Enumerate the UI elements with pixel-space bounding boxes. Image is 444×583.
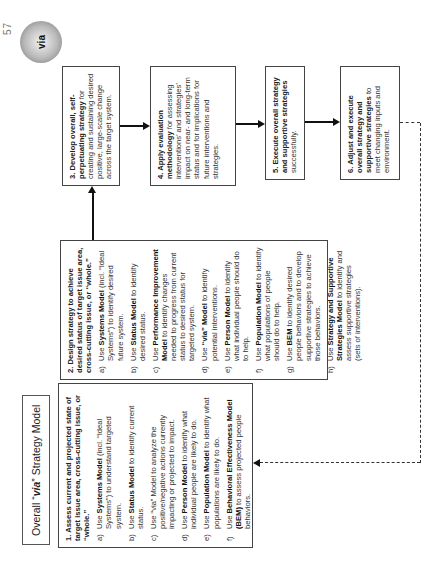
arrow-2-stub [92,192,94,240]
list-item: f)Use Behavioral Effectiveness Model (BE… [225,390,252,541]
list-item: b)Use Status Model to identify desired s… [129,247,147,373]
item-text: Use “via” Model to analyze the positive/… [149,415,176,529]
item-text: Use [202,513,211,529]
list-item: e)Use Population Model to identify what … [202,390,220,541]
step-5-execute-box: 5. Execute overall strategy and supporti… [265,66,305,180]
item-text: Use [326,345,335,361]
arrowhead-icon [258,120,265,128]
item-text: Use [223,345,232,361]
rotated-page: 57 Overall “via” Strategy Model via 1. A… [0,0,444,583]
item-text: Use [127,513,136,529]
item-letter: a) [95,534,104,541]
item-text: Use [95,513,104,529]
item-model: “via” Model [200,303,209,345]
feedback-loop-horizontal [420,123,421,463]
list-item: a)Use Systems Model (incl. “Ideal System… [97,247,124,373]
item-model: Population Model [202,450,211,513]
item-letter: b) [129,366,138,373]
title-suffix: ” Strategy Model [30,405,42,482]
item-model: BEM [285,329,294,346]
list-item: c)Use “via” Model to analyze the positiv… [149,390,176,541]
item-letter: a) [97,366,106,373]
item-letter: g) [285,366,294,373]
list-item: a)Use Systems Model (incl. “Ideal System… [95,390,122,541]
item-text: Use [200,345,209,361]
step-1-assess-box: 1. Assess current and projected state of… [58,383,253,548]
title-brand: via [30,482,42,497]
step-6-heading: 6. Adjust and execute overall strategy a… [346,95,373,173]
step-2-heading: 2. Design strategy to achieve desired st… [66,247,93,373]
item-model: Population Model [254,282,263,345]
list-item: d)Use Person Model to identify what indi… [180,390,198,541]
step-4-text: for assessing interventions’ and strateg… [165,77,220,179]
step-4-evaluate-box: 4. Apply evaluation methodology for asse… [150,66,236,186]
step-2-design-box: 2. Design strategy to achieve desired st… [60,240,328,380]
item-letter: e) [223,366,232,373]
item-text: Use [285,345,294,361]
step-3-develop-box: 3. Develop overall, self-perpetuating st… [62,66,120,186]
list-item: b)Use Status Model to identify current s… [127,390,145,541]
item-model: Status Model [129,298,138,345]
feedback-loop-up [260,462,420,463]
list-item: f)Use Population Model to identify what … [254,247,281,373]
step-5-heading: 5. Execute overall strategy and supporti… [271,77,289,173]
step-2-list: a)Use Systems Model (incl. “Ideal System… [97,247,362,373]
item-letter: f) [225,536,234,541]
page-number: 57 [2,22,13,35]
item-letter: h) [326,366,335,373]
item-letter: c) [151,367,160,373]
list-item: c)Use Performance Improvement Model to i… [151,247,197,373]
item-model: Person Model [223,296,232,346]
item-text: Use [254,345,263,361]
list-item: e)Use Person Model to identify what indi… [223,247,250,373]
item-text: Use [225,513,234,529]
item-letter: f) [254,368,263,373]
item-model: Person Model [180,464,189,514]
step-1-heading: 1. Assess current and projected state of… [64,390,91,541]
item-letter: b) [127,534,136,541]
item-letter: d) [200,366,209,373]
item-letter: d) [180,534,189,541]
feedback-loop-vertical [400,122,420,123]
item-model: Systems Model [95,458,104,513]
via-logo-icon: via [20,21,62,63]
arrow-4-to-5 [236,124,258,126]
item-letter: c) [149,535,158,541]
step-1-list: a)Use Systems Model (incl. “Ideal System… [95,390,252,541]
title-prefix: Overall “ [30,496,42,536]
item-text: Use [180,513,189,529]
via-logo-text: via [36,35,47,49]
step-3-heading: 3. Develop overall, self-perpetuating st… [68,95,86,179]
diagram-title: Overall “via” Strategy Model [22,395,50,545]
item-text: Use [151,345,160,361]
arrowhead-icon [333,118,340,126]
list-item: h)Use Strategy and Supportive Strategies… [326,247,362,373]
arrowhead-icon [253,459,260,467]
list-item: d)Use “via” Model to identify potential … [200,247,218,373]
arrowhead-icon [143,122,150,130]
item-text: Use [129,345,138,361]
item-letter: e) [202,534,211,541]
arrow-3-to-4 [120,126,143,128]
step-5-text: successfully. [289,131,298,173]
item-text: Use [97,345,106,361]
item-model: Status Model [127,466,136,513]
list-item: g)Use BEM to identify desired people beh… [285,247,321,373]
item-model: Systems Model [97,290,106,345]
step-6-adjust-box: 6. Adjust and execute overall strategy a… [340,66,400,180]
arrow-5-to-6 [305,122,333,124]
